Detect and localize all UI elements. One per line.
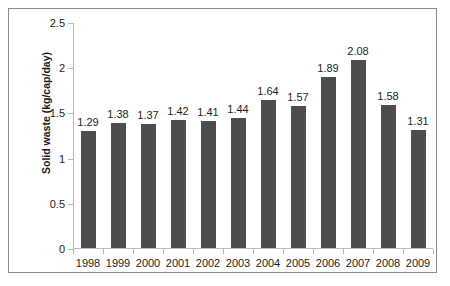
- bar-value-label: 1.42: [167, 105, 188, 117]
- x-tick-mark: [253, 249, 254, 254]
- y-tick-mark: [68, 113, 73, 114]
- x-axis-label: 2001: [166, 257, 190, 269]
- bar-value-label: 1.38: [107, 108, 128, 120]
- x-axis-label: 2000: [136, 257, 160, 269]
- x-tick-mark: [223, 249, 224, 254]
- y-tick-label: 0.5: [50, 198, 65, 210]
- bar: [201, 121, 216, 248]
- y-tick-mark: [68, 68, 73, 69]
- bar-value-label: 1.31: [407, 115, 428, 127]
- x-tick-mark: [433, 249, 434, 254]
- bar: [291, 106, 306, 248]
- chart-figure: Solid waste (kg/cap/day) 00.511.522.5 1.…: [0, 0, 450, 286]
- x-axis-label: 2003: [226, 257, 250, 269]
- y-tick-label: 2: [59, 62, 65, 74]
- bar-value-label: 1.37: [137, 109, 158, 121]
- plot-area: 00.511.522.5 1.291.381.371.421.411.441.6…: [73, 23, 433, 249]
- bar-value-label: 1.29: [77, 116, 98, 128]
- bar: [171, 120, 186, 248]
- bar: [351, 60, 366, 248]
- bar-value-label: 1.64: [257, 85, 278, 97]
- y-tick-label: 2.5: [50, 17, 65, 29]
- x-tick-mark: [73, 249, 74, 254]
- y-tick-mark: [68, 23, 73, 24]
- y-axis-line: [73, 23, 74, 249]
- bar: [141, 124, 156, 248]
- bar: [111, 123, 126, 248]
- x-tick-mark: [373, 249, 374, 254]
- x-axis-label: 2005: [286, 257, 310, 269]
- y-tick-mark: [68, 204, 73, 205]
- bar-value-label: 1.57: [287, 91, 308, 103]
- x-axis-label: 2004: [256, 257, 280, 269]
- x-tick-mark: [283, 249, 284, 254]
- x-axis-label: 2007: [346, 257, 370, 269]
- y-tick-label: 1: [59, 153, 65, 165]
- bar-value-label: 2.08: [347, 45, 368, 57]
- bar-value-label: 1.89: [317, 62, 338, 74]
- bar: [81, 131, 96, 248]
- bar-value-label: 1.44: [227, 103, 248, 115]
- x-axis-label: 2002: [196, 257, 220, 269]
- bar: [321, 77, 336, 248]
- x-tick-mark: [193, 249, 194, 254]
- x-axis-label: 1998: [76, 257, 100, 269]
- x-axis-label: 2009: [406, 257, 430, 269]
- bar: [381, 105, 396, 248]
- x-tick-mark: [313, 249, 314, 254]
- x-tick-mark: [163, 249, 164, 254]
- x-tick-mark: [103, 249, 104, 254]
- x-tick-mark: [343, 249, 344, 254]
- y-tick-mark: [68, 159, 73, 160]
- y-tick-label: 1.5: [50, 107, 65, 119]
- bar-value-label: 1.41: [197, 106, 218, 118]
- x-axis-label: 1999: [106, 257, 130, 269]
- chart-frame: Solid waste (kg/cap/day) 00.511.522.5 1.…: [8, 8, 437, 273]
- y-tick-label: 0: [59, 243, 65, 255]
- bar: [261, 100, 276, 248]
- x-axis-label: 2006: [316, 257, 340, 269]
- x-tick-mark: [403, 249, 404, 254]
- bar: [411, 130, 426, 248]
- bar: [231, 118, 246, 248]
- bar-value-label: 1.58: [377, 90, 398, 102]
- x-tick-mark: [133, 249, 134, 254]
- x-axis-labels: 1998199920002001200220032004200520062007…: [73, 257, 433, 273]
- x-axis-label: 2008: [376, 257, 400, 269]
